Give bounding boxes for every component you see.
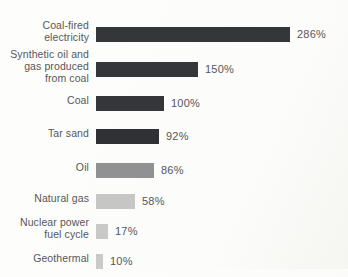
- value-label: 92%: [166, 130, 189, 142]
- category-label: Nuclear power fuel cycle: [0, 216, 96, 240]
- category-label: Oil: [0, 161, 96, 173]
- bar: [96, 129, 159, 144]
- category-label: Tar sand: [0, 127, 96, 139]
- value-label: 150%: [205, 63, 234, 75]
- chart-row: Nuclear power fuel cycle 17%: [0, 215, 348, 247]
- bar: [96, 224, 108, 239]
- value-label: 10%: [110, 255, 133, 267]
- bar: [96, 163, 154, 178]
- value-label: 17%: [115, 225, 138, 237]
- category-label: Geothermal: [0, 252, 96, 264]
- category-label: Coal-fired electricity: [0, 19, 96, 43]
- chart-row: Coal 100%: [0, 87, 348, 119]
- category-label: Coal: [0, 94, 96, 106]
- category-label: Natural gas: [0, 192, 96, 204]
- value-label: 100%: [171, 97, 200, 109]
- chart-row: Coal-fired electricity 286%: [0, 18, 348, 50]
- chart-row: Tar sand 92%: [0, 120, 348, 152]
- value-label: 58%: [142, 195, 165, 207]
- value-label: 86%: [161, 164, 184, 176]
- bar: [96, 27, 290, 42]
- chart-row: Geothermal 10%: [0, 245, 348, 277]
- bar: [96, 96, 164, 111]
- bar: [96, 62, 198, 77]
- value-label: 286%: [297, 28, 326, 40]
- category-label: Synthetic oil and gas produced from coal: [0, 48, 96, 84]
- chart-row: Natural gas 58%: [0, 185, 348, 217]
- chart-row: Synthetic oil and gas produced from coal…: [0, 53, 348, 85]
- bar: [96, 254, 103, 269]
- chart-row: Oil 86%: [0, 154, 348, 186]
- bar: [96, 194, 135, 209]
